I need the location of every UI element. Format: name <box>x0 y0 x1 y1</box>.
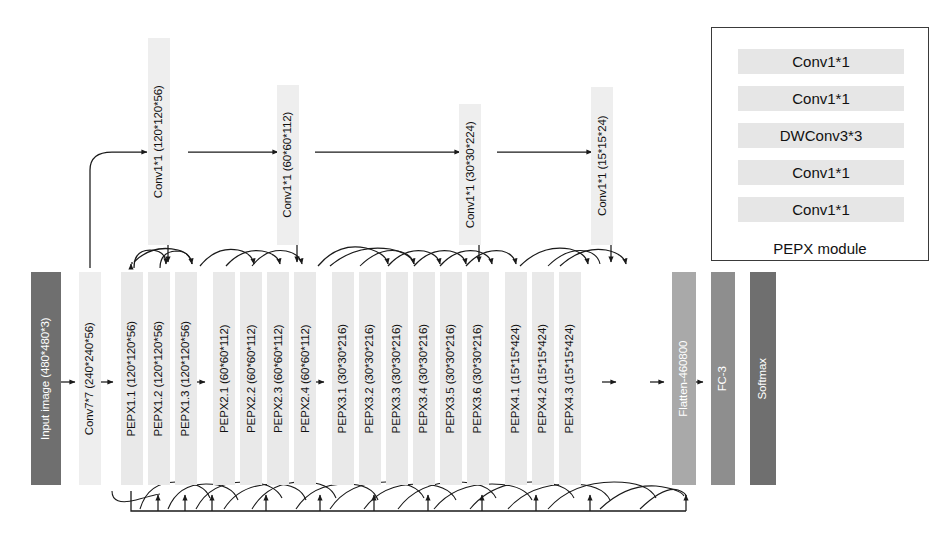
pepx-label-2-2: PEPX2.2 (60*60*112) <box>245 324 257 433</box>
fc-block: FC-3 <box>711 272 735 485</box>
pepx-block-1-2: PEPX1.2 (120*120*56) <box>148 272 170 485</box>
conv-projection-label-2: Conv1*1 (60*60*112) <box>282 112 294 218</box>
stem-conv-label: Conv7*7 (240*240*56) <box>84 322 96 435</box>
legend-caption: PEPX module <box>712 240 928 257</box>
pepx-label-2-3: PEPX2.3 (60*60*112) <box>272 324 284 433</box>
pepx-label-1-2: PEPX1.2 (120*120*56) <box>153 321 165 437</box>
pepx-label-2-4: PEPX2.4 (60*60*112) <box>299 324 311 433</box>
pepx-block-3-4: PEPX3.4 (30*30*216) <box>413 272 435 485</box>
pepx-label-3-5: PEPX3.5 (30*30*216) <box>445 324 457 433</box>
pepx-block-1-3: PEPX1.3 (120*120*56) <box>175 272 197 485</box>
pepx-block-3-6: PEPX3.6 (30*30*216) <box>467 272 489 485</box>
pepx-block-3-2: PEPX3.2 (30*30*216) <box>359 272 381 485</box>
pepx-block-3-5: PEPX3.5 (30*30*216) <box>440 272 462 485</box>
conv-projection-label-3: Conv1*1 (30*30*224) <box>464 121 476 228</box>
legend-row-label-1: Conv1*1 <box>792 53 850 70</box>
pepx-block-2-4: PEPX2.4 (60*60*112) <box>294 272 316 485</box>
pepx-label-4-3: PEPX4.3 (15*15*424) <box>564 324 576 433</box>
legend-row-label-2: Conv1*1 <box>792 90 850 107</box>
pepx-block-2-1: PEPX2.1 (60*60*112) <box>213 272 235 485</box>
pepx-label-1-3: PEPX1.3 (120*120*56) <box>180 321 192 437</box>
diagram-canvas: Input image (480*480*3) Conv7*7 (240*240… <box>0 0 935 535</box>
pepx-block-1-1: PEPX1.1 (120*120*56) <box>121 272 143 485</box>
pepx-block-4-3: PEPX4.3 (15*15*424) <box>559 272 581 485</box>
softmax-label: Softmax <box>757 358 769 399</box>
fc-label: FC-3 <box>717 366 729 391</box>
pepx-block-2-2: PEPX2.2 (60*60*112) <box>240 272 262 485</box>
conv-projection-label-1: Conv1*1 (120*120*56) <box>153 85 165 198</box>
conv-projection-block-1: Conv1*1 (120*120*56) <box>148 38 170 245</box>
pepx-label-4-1: PEPX4.1 (15*15*424) <box>510 324 522 433</box>
pepx-label-3-2: PEPX3.2 (30*30*216) <box>364 324 376 433</box>
pepx-label-4-2: PEPX4.2 (15*15*424) <box>537 324 549 433</box>
legend-row-conv1-c: Conv1*1 <box>738 160 904 185</box>
legend-row-label-3: DWConv3*3 <box>780 127 863 144</box>
legend-row-dwconv3: DWConv3*3 <box>738 123 904 148</box>
pepx-label-3-4: PEPX3.4 (30*30*216) <box>418 324 430 433</box>
pepx-label-3-3: PEPX3.3 (30*30*216) <box>391 324 403 433</box>
softmax-block: Softmax <box>750 272 776 485</box>
pepx-block-3-1: PEPX3.1 (30*30*216) <box>332 272 354 485</box>
legend-row-conv1-b: Conv1*1 <box>738 86 904 111</box>
pepx-label-2-1: PEPX2.1 (60*60*112) <box>218 324 230 433</box>
legend-row-label-4: Conv1*1 <box>792 164 850 181</box>
input-image-block: Input image (480*480*3) <box>31 272 61 485</box>
flatten-label: Flatten-460800 <box>678 341 690 417</box>
input-image-label: Input image (480*480*3) <box>40 317 52 439</box>
flatten-block: Flatten-460800 <box>672 272 696 485</box>
conv-projection-block-4: Conv1*1 (15*15*24) <box>591 87 613 245</box>
legend-row-conv1-a: Conv1*1 <box>738 49 904 74</box>
conv-projection-label-4: Conv1*1 (15*15*24) <box>596 116 608 217</box>
pepx-block-3-3: PEPX3.3 (30*30*216) <box>386 272 408 485</box>
pepx-label-1-1: PEPX1.1 (120*120*56) <box>126 321 138 437</box>
legend-row-label-5: Conv1*1 <box>792 201 850 218</box>
pepx-block-4-1: PEPX4.1 (15*15*424) <box>505 272 527 485</box>
pepx-block-2-3: PEPX2.3 (60*60*112) <box>267 272 289 485</box>
pepx-block-4-2: PEPX4.2 (15*15*424) <box>532 272 554 485</box>
pepx-label-3-1: PEPX3.1 (30*30*216) <box>337 324 349 433</box>
pepx-label-3-6: PEPX3.6 (30*30*216) <box>472 324 484 433</box>
conv-projection-block-3: Conv1*1 (30*30*224) <box>459 104 481 245</box>
pepx-module-legend: Conv1*1 Conv1*1 DWConv3*3 Conv1*1 Conv1*… <box>711 27 929 261</box>
legend-row-conv1-d: Conv1*1 <box>738 197 904 222</box>
stem-conv-block: Conv7*7 (240*240*56) <box>79 272 101 485</box>
conv-projection-block-2: Conv1*1 (60*60*112) <box>277 85 299 245</box>
